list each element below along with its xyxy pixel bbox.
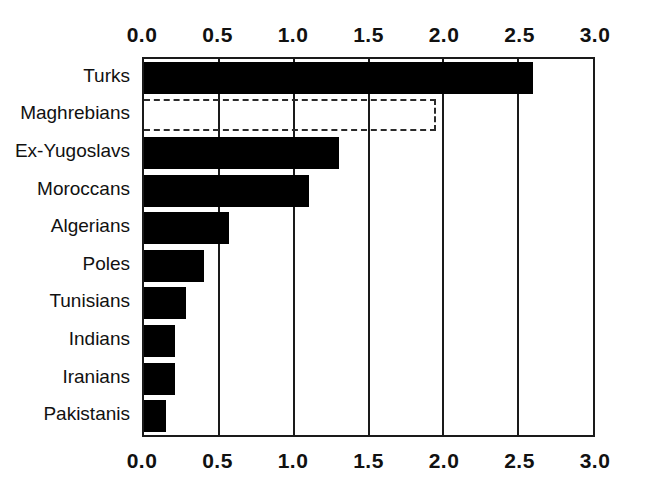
category-label-ex-yugoslavs: Ex-Yugoslavs [15,140,130,162]
bars-layer [144,59,593,435]
plot-area [142,57,595,437]
category-label-pakistanis: Pakistanis [43,403,130,425]
bar-iranians [144,363,175,395]
top-tick-label: 1.0 [278,22,309,48]
bar-indians [144,325,175,357]
category-label-poles: Poles [82,253,130,275]
bottom-tick-label: 2.0 [429,448,460,474]
bar-poles [144,250,204,282]
top-tick-label: 0.0 [127,22,158,48]
category-label-turks: Turks [83,65,130,87]
bottom-axis-tick-labels: 0.0 0.5 1.0 1.5 2.0 2.5 3.0 [0,448,647,474]
bar-moroccans [144,175,309,207]
bar-tunisians [144,287,186,319]
category-label-moroccans: Moroccans [37,178,130,200]
bar-ex-yugoslavs [144,137,339,169]
bottom-tick-label: 3.0 [580,448,611,474]
category-label-algerians: Algerians [51,215,130,237]
top-tick-label: 3.0 [580,22,611,48]
top-tick-label: 0.5 [202,22,233,48]
category-label-maghrebians: Maghrebians [20,102,130,124]
bottom-tick-label: 1.0 [278,448,309,474]
bar-turks [144,62,533,94]
top-tick-label: 2.0 [429,22,460,48]
bottom-tick-label: 0.5 [202,448,233,474]
top-axis-tick-labels: 0.0 0.5 1.0 1.5 2.0 2.5 3.0 [0,22,647,48]
bar-algerians [144,212,229,244]
bar-maghrebians [144,99,436,131]
top-tick-label: 1.5 [353,22,384,48]
bottom-tick-label: 1.5 [353,448,384,474]
bar-chart: 0.0 0.5 1.0 1.5 2.0 2.5 3.0 Turks Maghre… [0,0,647,499]
category-label-tunisians: Tunisians [49,290,130,312]
category-label-iranians: Iranians [62,366,130,388]
bar-pakistanis [144,400,166,432]
bottom-tick-label: 2.5 [504,448,535,474]
bottom-tick-label: 0.0 [127,448,158,474]
category-label-indians: Indians [69,328,130,350]
category-axis-labels: Turks Maghrebians Ex-Yugoslavs Moroccans… [0,57,136,437]
top-tick-label: 2.5 [504,22,535,48]
